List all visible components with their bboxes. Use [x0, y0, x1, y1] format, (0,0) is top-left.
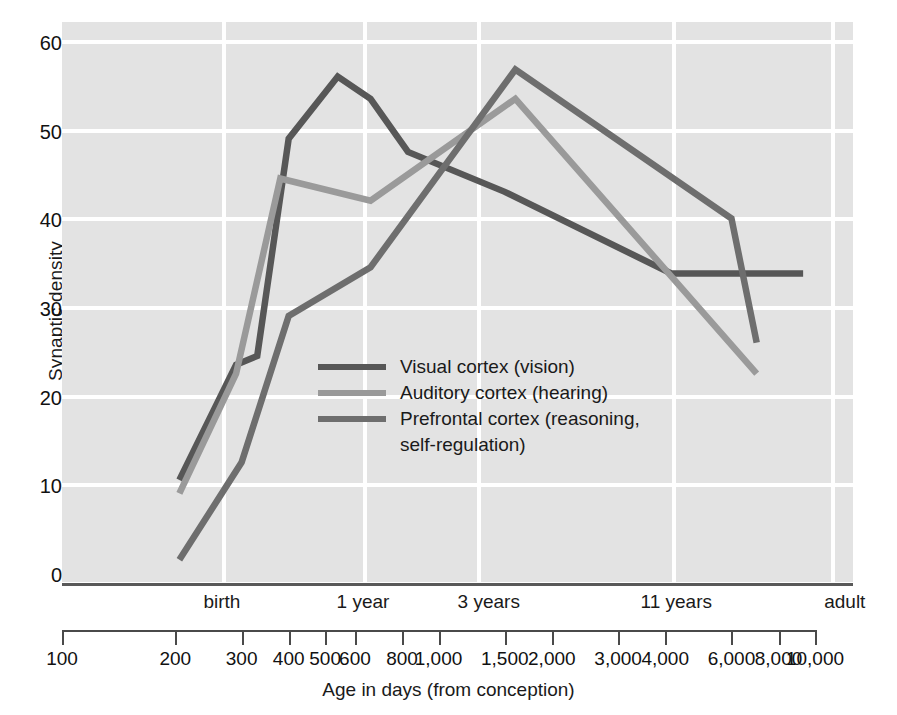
legend-label: Visual cortex (vision) — [400, 355, 575, 378]
scale-tick-label: 200 — [159, 648, 191, 670]
age-label: 1 year — [337, 591, 390, 613]
scale-tick — [289, 630, 291, 645]
y-tick-label: 20 — [20, 387, 62, 410]
scale-tick — [505, 630, 507, 645]
legend: Visual cortex (vision) Auditory cortex (… — [318, 355, 648, 456]
scale-tick — [439, 630, 441, 645]
x-axis-baseline — [62, 583, 853, 586]
legend-swatch-icon — [318, 364, 386, 370]
scale-tick-label: 100 — [46, 648, 78, 670]
series-lines — [62, 22, 853, 582]
scale-tick — [175, 630, 177, 645]
y-tick-label: 10 — [20, 475, 62, 498]
synaptic-density-chart: Synaptic density 6050403020100 birth1 ye… — [0, 0, 897, 715]
scale-tick-label: 800 — [386, 648, 418, 670]
scale-tick-label: 4,000 — [641, 648, 689, 670]
legend-label: Prefrontal cortex (reasoning, — [400, 407, 640, 430]
legend-item: Visual cortex (vision) — [318, 355, 648, 378]
legend-item: Auditory cortex (hearing) — [318, 381, 648, 404]
age-label: 11 years — [641, 591, 712, 613]
legend-item: Prefrontal cortex (reasoning, — [318, 407, 648, 430]
scale-tick-label: 300 — [226, 648, 258, 670]
x-axis-title: Age in days (from conception) — [0, 679, 897, 701]
scale-tick — [402, 630, 404, 645]
plot-area — [62, 22, 853, 582]
age-label: birth — [203, 591, 240, 613]
scale-tick-label: 600 — [339, 648, 371, 670]
scale-tick-label: 10,000 — [786, 648, 844, 670]
scale-tick-label: 500 — [309, 648, 341, 670]
scale-tick-label: 1,500 — [481, 648, 529, 670]
y-tick-label: 30 — [20, 298, 62, 321]
scale-tick — [665, 630, 667, 645]
log-scale-ruler: 1002003004005006008001,0001,5002,0003,00… — [0, 630, 897, 675]
scale-tick-label: 2,000 — [528, 648, 576, 670]
scale-tick-label: 400 — [273, 648, 305, 670]
legend-swatch-icon — [318, 416, 386, 422]
y-tick-label: 40 — [20, 209, 62, 232]
scale-tick — [242, 630, 244, 645]
scale-tick — [779, 630, 781, 645]
scale-tick — [552, 630, 554, 645]
scale-tick — [731, 630, 733, 645]
legend-label: Auditory cortex (hearing) — [400, 381, 608, 404]
scale-tick — [815, 630, 817, 645]
scale-tick-label: 1,000 — [415, 648, 463, 670]
age-category-labels: birth1 year3 years11 yearsadult — [0, 589, 897, 615]
y-tick-label: 60 — [20, 32, 62, 55]
scale-tick — [325, 630, 327, 645]
y-tick-label: 50 — [20, 121, 62, 144]
scale-tick — [618, 630, 620, 645]
age-label: 3 years — [458, 591, 520, 613]
legend-swatch-icon — [318, 390, 386, 396]
legend-label-continued: self-regulation) — [400, 433, 648, 456]
age-label: adult — [824, 591, 865, 613]
scale-tick-label: 3,000 — [594, 648, 642, 670]
y-tick-label: 0 — [20, 564, 62, 587]
scale-tick — [355, 630, 357, 645]
scale-tick — [62, 630, 64, 645]
scale-tick-label: 6,000 — [708, 648, 756, 670]
